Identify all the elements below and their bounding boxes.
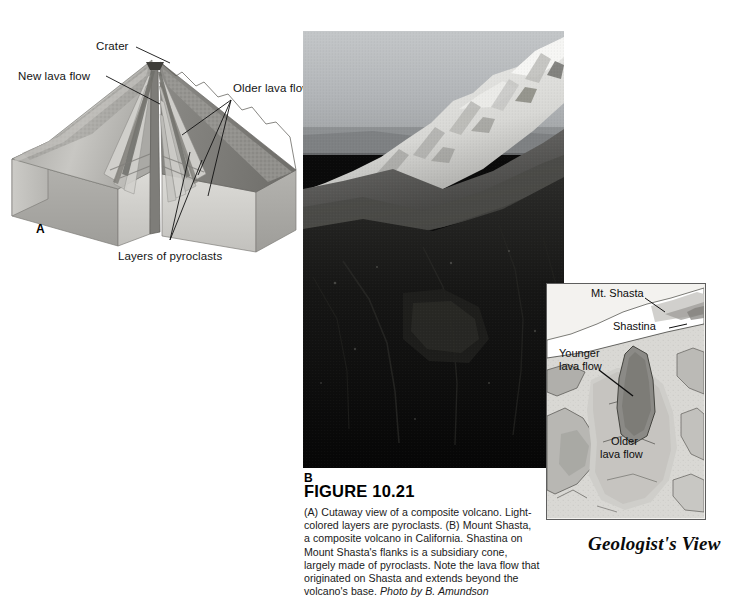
inset-label-younger-lava-flow-line2: lava flow (559, 360, 602, 373)
figure-number: FIGURE 10.21 (304, 482, 540, 501)
inset-label-younger-lava-flow-line1: Younger (559, 347, 600, 360)
figure-caption-text: (A) Cutaway view of a composite volcano.… (304, 506, 540, 598)
inset-label-older-lava-flow-line1: Older (611, 435, 638, 448)
part-a-cutaway-diagram (0, 24, 300, 274)
inset-label-older-lava-flow-line2: lava flow (600, 448, 643, 461)
inset-label-mt-shasta: Mt. Shasta (591, 287, 644, 300)
figure-caption-block: FIGURE 10.21 (A) Cutaway view of a compo… (304, 482, 540, 598)
part-b-photograph (303, 31, 564, 468)
label-crater: Crater (96, 40, 129, 53)
geologist-view-title: Geologist's View (588, 533, 721, 555)
label-layers-of-pyroclasts: Layers of pyroclasts (118, 250, 222, 263)
panel-letter-a: A (36, 222, 45, 236)
inset-label-shastina: Shastina (613, 320, 656, 333)
caption-photo-credit: Photo by B. Amundson (380, 585, 489, 597)
caption-main-text: (A) Cutaway view of a composite volcano.… (304, 506, 539, 597)
label-new-lava-flow: New lava flow (18, 70, 90, 83)
cutaway-volcano-illustration (0, 24, 300, 274)
geologist-view-inset: Mt. Shasta Shastina Younger lava flow Ol… (546, 283, 706, 520)
mount-shasta-photo (303, 31, 564, 468)
